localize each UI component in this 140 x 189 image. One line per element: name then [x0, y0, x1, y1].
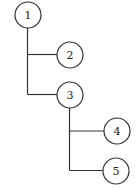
- node-3: 3: [57, 82, 83, 108]
- node-5: 5: [103, 158, 129, 184]
- tree-diagram: 1 2 3 4 5: [0, 0, 140, 189]
- node-label: 3: [67, 89, 74, 102]
- node-1: 1: [15, 2, 41, 28]
- nodes: 1 2 3 4 5: [15, 2, 130, 184]
- node-2: 2: [57, 42, 83, 68]
- node-4: 4: [104, 118, 130, 144]
- node-label: 5: [113, 165, 120, 178]
- node-label: 2: [67, 49, 74, 62]
- node-label: 4: [114, 125, 121, 138]
- node-label: 1: [25, 9, 32, 22]
